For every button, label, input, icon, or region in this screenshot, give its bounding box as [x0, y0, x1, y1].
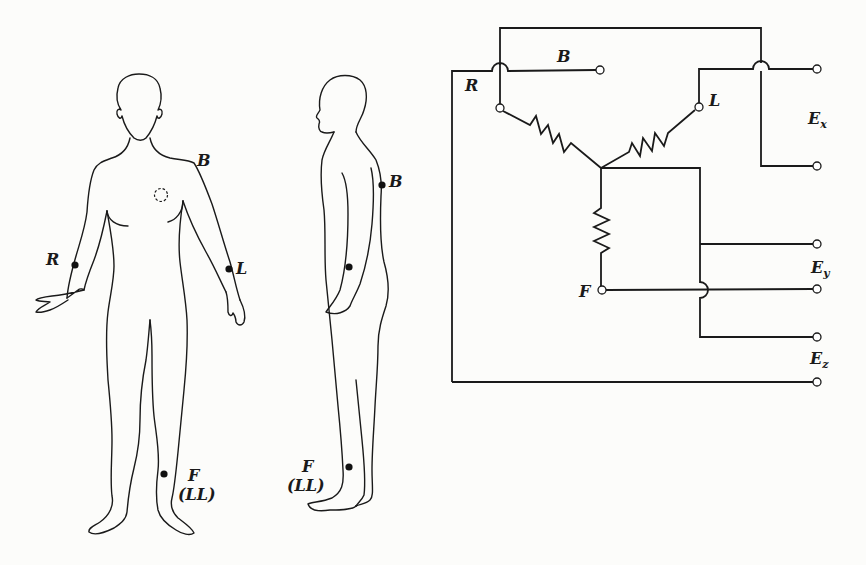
label-L-front: L	[235, 259, 247, 278]
label-B-front: B	[196, 151, 211, 170]
label-F-front: F	[187, 466, 201, 485]
output-label-Ez: Ez	[809, 349, 829, 371]
terminal-R	[496, 104, 504, 112]
side-front-outline	[308, 132, 356, 511]
lead-network-circuit	[452, 28, 821, 386]
label-B-side: B	[388, 172, 403, 191]
circuit-label-B: B	[556, 47, 571, 66]
right-inner-arm	[84, 211, 107, 290]
front-view-figure	[36, 74, 245, 534]
electrode-B-side	[378, 181, 385, 188]
output-label-Ex: Ex	[807, 109, 827, 131]
terminal-Ez-minus	[813, 378, 821, 386]
electrode-L-front	[225, 265, 232, 272]
right-side-outline	[67, 138, 130, 298]
label-F-side: F	[301, 457, 315, 476]
resistor-R	[503, 111, 601, 168]
wire-Ex-lower	[761, 71, 813, 166]
wire-center-Ez	[601, 168, 813, 337]
label-LL-side: (LL)	[287, 476, 325, 495]
side-view-figure	[308, 76, 388, 511]
left-side-outline	[150, 138, 240, 300]
figure-canvas: R L B F (LL) B F (LL)	[0, 0, 866, 565]
head-outline	[117, 74, 162, 140]
side-arm-outline	[326, 168, 373, 314]
output-label-Ey: Ey	[810, 258, 831, 280]
terminal-Ex-plus	[813, 65, 821, 73]
circuit-label-L: L	[708, 91, 720, 110]
side-head-outline	[316, 76, 366, 134]
terminal-Ey-minus	[813, 285, 821, 293]
electrode-F-front	[160, 470, 167, 477]
right-hand	[36, 289, 84, 313]
electrode-F-side	[345, 463, 352, 470]
side-back-leg	[356, 380, 365, 506]
terminal-Ey-plus	[813, 240, 821, 248]
right-leg-outline	[89, 211, 150, 534]
left-inner-arm	[183, 201, 226, 292]
left-hand	[226, 292, 245, 325]
label-LL-front: (LL)	[178, 485, 216, 504]
wire-F-Ey	[606, 289, 813, 290]
terminal-L	[695, 103, 703, 111]
wire-top-bridge	[500, 28, 761, 65]
terminal-Ez-plus	[813, 333, 821, 341]
wire-R-B	[452, 63, 596, 382]
heart-position-marker	[155, 189, 168, 202]
terminal-F	[598, 286, 606, 294]
electrode-R-front	[71, 261, 78, 268]
electrode-R-side	[345, 263, 352, 270]
terminal-B	[596, 66, 604, 74]
circuit-label-F: F	[578, 282, 592, 301]
terminal-Ex-minus	[813, 162, 821, 170]
label-R-front: R	[45, 250, 59, 269]
right-chest-curve	[107, 211, 128, 226]
circuit-label-R: R	[464, 76, 478, 95]
resistor-F	[594, 168, 609, 286]
resistor-L	[601, 110, 695, 168]
